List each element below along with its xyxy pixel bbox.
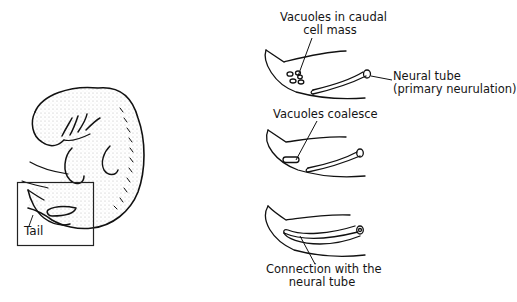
panel-3-label-line2: neural tube: [266, 276, 378, 289]
panel-3-label: Connection with the neural tube: [266, 263, 378, 289]
neural-tube-label-line2: (primary neurulation): [393, 83, 517, 96]
tail-label: Tail: [24, 225, 43, 238]
neural-tube-label: Neural tube (primary neurulation): [393, 70, 517, 96]
panel-1-label: Vacuoles in caudal cell mass: [280, 11, 380, 37]
panel-1-pointer-line: [298, 38, 312, 76]
panel-3-tail-section: [266, 206, 365, 256]
panel-3-pointer-line: [300, 236, 315, 264]
panel-2-tail-section: [267, 130, 365, 177]
panel-1-side-pointer-line: [371, 76, 392, 80]
embryo-illustration: [22, 87, 144, 228]
panel-1-tail-section: [265, 50, 370, 99]
panel-1-label-line2: cell mass: [280, 24, 380, 37]
panel-2-label: Vacuoles coalesce: [273, 108, 378, 121]
